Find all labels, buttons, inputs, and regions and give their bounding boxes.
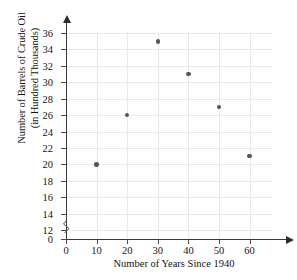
y-axis-tick-label: 32 — [43, 60, 54, 71]
y-axis-tick — [61, 197, 66, 198]
y-axis-tick-label: 12 — [43, 225, 54, 236]
y-axis-tick-label-wrap: 26 — [60, 115, 61, 116]
gridline-horizontal — [67, 82, 272, 83]
gridline-horizontal — [67, 66, 272, 67]
y-axis-title-line2: (in Hundred Thousands) — [28, 0, 41, 171]
y-axis-tick — [61, 181, 66, 182]
data-point — [247, 154, 252, 159]
data-point — [186, 72, 191, 77]
y-axis-tick-label: 24 — [43, 126, 54, 137]
y-axis-title: Number of Barrels of Crude Oil (in Hundr… — [15, 0, 45, 171]
gridline-horizontal — [67, 181, 272, 182]
gridline-vertical — [127, 32, 128, 239]
y-axis-tick-label: 16 — [43, 192, 54, 203]
y-axis-tick-label-wrap: 34 — [60, 49, 61, 50]
gridline-horizontal — [67, 197, 272, 198]
x-axis-tick — [127, 239, 128, 244]
y-axis-tick-label-wrap: 16 — [60, 197, 61, 198]
y-axis-tick-label-wrap: 32 — [60, 66, 61, 67]
y-axis-tick-label-wrap: 14 — [60, 214, 61, 215]
x-axis-tick-label: 20 — [122, 245, 133, 256]
y-axis-tick-label-wrap: 20 — [60, 164, 61, 165]
x-axis-tick-label: 60 — [244, 245, 255, 256]
y-axis-tick — [61, 148, 66, 149]
x-axis-tick — [158, 239, 159, 244]
gridline-vertical — [219, 32, 220, 239]
y-axis-tick-label: 22 — [43, 142, 54, 153]
gridline-horizontal — [67, 49, 272, 50]
x-axis-tick — [188, 239, 189, 244]
gridline-vertical — [250, 32, 251, 239]
y-axis-arrow-icon — [63, 15, 71, 23]
y-axis-title-line1: Number of Barrels of Crude Oil — [15, 0, 28, 171]
x-axis-tick — [219, 239, 220, 244]
x-axis-tick-label: 50 — [214, 245, 225, 256]
y-axis-tick-label-wrap: 24 — [60, 132, 61, 133]
x-axis-line — [66, 239, 288, 240]
y-axis-tick-label-wrap: 30 — [60, 82, 61, 83]
scatter-plot-figure: Number of Barrels of Crude Oil (in Hundr… — [0, 0, 297, 280]
x-axis-tick — [66, 239, 67, 244]
x-axis-tick-label: 30 — [153, 245, 164, 256]
data-point — [125, 113, 130, 118]
gridline-horizontal — [67, 148, 272, 149]
gridline-horizontal — [67, 115, 272, 116]
y-axis-tick-label: 34 — [43, 44, 54, 55]
y-axis-tick — [61, 164, 66, 165]
gridline-vertical — [97, 32, 98, 239]
y-axis-tick — [61, 132, 66, 133]
x-axis-tick — [250, 239, 251, 244]
x-axis-tick-label: 40 — [183, 245, 194, 256]
y-axis-tick-label: 26 — [43, 110, 54, 121]
y-axis-tick — [61, 99, 66, 100]
gridline-horizontal — [67, 132, 272, 133]
y-axis-tick-label: 18 — [43, 175, 54, 186]
x-axis-arrow-icon — [286, 236, 294, 244]
y-axis-tick-label-wrap: 28 — [60, 99, 61, 100]
plot-area: 012141618202224262830323436 010203040506… — [66, 22, 288, 240]
x-axis-title: Number of Years Since 1940 — [60, 258, 288, 269]
y-axis-tick-label-wrap: 22 — [60, 148, 61, 149]
y-axis-tick-label: 36 — [43, 28, 54, 39]
data-point — [156, 39, 161, 44]
y-axis-tick-label-wrap: 12 — [60, 230, 61, 231]
y-axis-break-icon — [62, 220, 71, 233]
y-axis-tick-label-wrap: 36 — [60, 33, 61, 34]
data-point — [94, 162, 99, 167]
y-axis-tick — [61, 33, 66, 34]
gridline-vertical — [188, 32, 189, 239]
y-axis-tick-label: 20 — [43, 159, 54, 170]
data-point — [217, 105, 222, 110]
gridline-horizontal — [67, 230, 272, 231]
x-axis-tick-label: 0 — [63, 245, 68, 256]
y-axis-tick — [61, 214, 66, 215]
y-axis-tick — [61, 66, 66, 67]
x-axis-tick — [97, 239, 98, 244]
y-axis-tick — [61, 82, 66, 83]
gridline-horizontal — [67, 214, 272, 215]
gridline-horizontal — [67, 99, 272, 100]
gridline-horizontal — [67, 33, 272, 34]
y-axis-tick-label: 30 — [43, 77, 54, 88]
y-axis-tick — [61, 49, 66, 50]
gridline-vertical — [158, 32, 159, 239]
y-axis-tick-label-wrap: 0 — [60, 239, 61, 240]
y-axis-tick-label: 28 — [43, 93, 54, 104]
y-axis-tick-label: 14 — [43, 208, 54, 219]
y-axis-tick — [61, 115, 66, 116]
x-axis-tick-label: 10 — [91, 245, 102, 256]
y-axis-tick-label-wrap: 18 — [60, 181, 61, 182]
